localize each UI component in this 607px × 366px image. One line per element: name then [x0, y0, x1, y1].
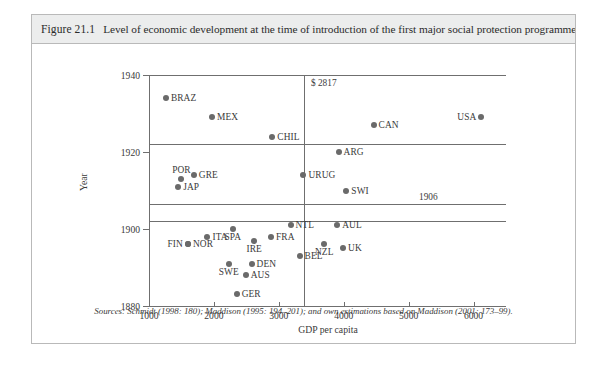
data-point-label-usa: USA — [457, 112, 476, 122]
data-point-chil[interactable] — [269, 134, 275, 140]
data-point-aus[interactable] — [243, 272, 249, 278]
data-point-label-fin: FIN — [168, 239, 183, 249]
data-point-label-ire: IRE — [246, 244, 261, 254]
data-point-label-fra: FRA — [276, 232, 295, 242]
data-point-label-jap: JAP — [183, 182, 199, 192]
data-point-jap[interactable] — [175, 184, 181, 190]
data-point-usa[interactable] — [478, 114, 484, 120]
data-point-label-por: POR — [172, 165, 191, 175]
data-point-label-gre: GRE — [199, 170, 218, 180]
data-point-label-nzl: NZL — [315, 247, 334, 257]
data-point-arg[interactable] — [336, 149, 342, 155]
reference-line-1906 — [149, 204, 506, 205]
figure-header: Figure 21.1 Level of economic developmen… — [32, 15, 575, 44]
data-point-den[interactable] — [249, 261, 255, 267]
x-axis-title: GDP per capita — [298, 324, 357, 335]
data-point-label-den: DEN — [257, 259, 277, 269]
data-point-label-chil: CHIL — [277, 132, 299, 142]
data-point-label-braz: BRAZ — [171, 93, 196, 103]
y-axis-line — [149, 75, 150, 307]
data-point-label-arg: ARG — [344, 147, 364, 157]
data-point-fin[interactable] — [185, 241, 191, 247]
source-note: Sources: Schmidt (1998: 180); Maddison (… — [32, 306, 575, 316]
data-point-swi[interactable] — [343, 188, 349, 194]
reference-label-2817: $ 2817 — [311, 78, 337, 88]
data-point-ger[interactable] — [234, 291, 240, 297]
data-point-label-mex: MEX — [217, 112, 238, 122]
data-point-braz[interactable] — [163, 95, 169, 101]
reference-line-1900 — [149, 221, 506, 222]
data-point-ntl[interactable] — [288, 222, 294, 228]
y-tick-mark — [143, 152, 150, 153]
data-point-label-uk: UK — [348, 243, 362, 253]
data-point-bel[interactable] — [297, 253, 303, 259]
figure-container: Figure 21.1 Level of economic developmen… — [31, 14, 576, 344]
data-point-label-aus: AUS — [251, 270, 270, 280]
data-point-label-nor: NOR — [193, 239, 213, 249]
data-point-can[interactable] — [371, 122, 377, 128]
y-tick-mark — [143, 75, 150, 76]
reference-label-1906: 1906 — [419, 192, 438, 202]
data-point-label-ita: ITA — [212, 232, 227, 242]
data-point-label-swi: SWI — [351, 186, 369, 196]
reference-line-2817 — [304, 75, 305, 307]
y-tick-label: 1900 — [121, 224, 140, 235]
chart-plot-area: $ 2817 1906 Year GDP per capita 18801900… — [32, 44, 575, 345]
data-point-urug[interactable] — [300, 172, 306, 178]
reference-line-1920 — [149, 144, 506, 145]
data-point-label-swe: SWE — [219, 267, 239, 277]
data-point-label-ger: GER — [242, 289, 261, 299]
reference-line-1940 — [149, 75, 506, 76]
data-point-label-ntl: NTL — [296, 220, 315, 230]
data-point-gre[interactable] — [191, 172, 197, 178]
data-point-fra[interactable] — [268, 234, 274, 240]
y-tick-label: 1940 — [121, 70, 140, 81]
data-point-aul[interactable] — [334, 222, 340, 228]
data-point-uk[interactable] — [340, 245, 346, 251]
data-point-mex[interactable] — [209, 114, 215, 120]
y-tick-mark — [143, 229, 150, 230]
data-point-label-can: CAN — [379, 120, 399, 130]
data-point-label-urug: URUG — [308, 170, 335, 180]
data-point-label-aul: AUL — [342, 220, 362, 230]
figure-number: Figure 21.1 — [41, 23, 95, 35]
y-tick-label: 1920 — [121, 147, 140, 158]
figure-caption: Level of economic development at the tim… — [103, 23, 575, 35]
y-axis-title: Year — [78, 173, 89, 191]
